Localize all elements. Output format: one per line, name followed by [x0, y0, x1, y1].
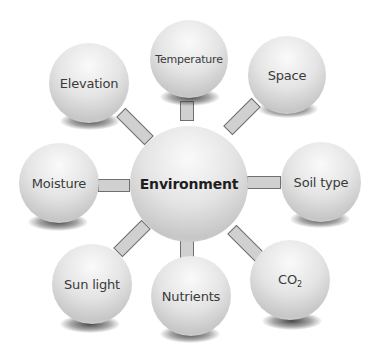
node-label-sun-light: Sun light: [64, 277, 120, 292]
environment-diagram: Environment Temperature Space Soil type …: [0, 0, 377, 358]
node-sun-light: Sun light: [52, 244, 132, 324]
node-label-space: Space: [268, 68, 307, 83]
node-temperature: Temperature: [150, 20, 228, 98]
node-nutrients: Nutrients: [151, 256, 231, 336]
connector-elevation: [116, 108, 153, 145]
node-moisture: Moisture: [19, 143, 99, 223]
connector-space: [223, 98, 260, 135]
node-label-soil-type: Soil type: [294, 175, 349, 190]
connector-soil-type: [247, 176, 281, 189]
node-label-elevation: Elevation: [60, 76, 119, 91]
connector-moisture: [98, 179, 130, 192]
connector-sun-light: [113, 220, 150, 257]
node-label-nutrients: Nutrients: [162, 289, 220, 304]
center-node-environment: Environment: [130, 126, 248, 242]
node-space: Space: [248, 36, 326, 114]
node-label-co2: CO2: [278, 272, 302, 289]
center-label: Environment: [140, 176, 239, 192]
node-label-moisture: Moisture: [32, 176, 86, 191]
node-label-temperature: Temperature: [155, 53, 222, 66]
node-elevation: Elevation: [49, 43, 129, 123]
node-soil-type: Soil type: [281, 142, 361, 222]
node-co2: CO2: [250, 240, 330, 320]
